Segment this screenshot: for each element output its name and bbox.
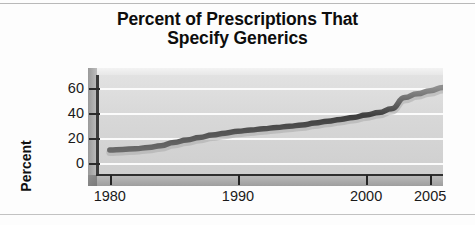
y-axis-tick-labels: 0204060 bbox=[52, 60, 84, 182]
x-axis-tick-mark bbox=[238, 175, 240, 185]
y-axis-tick-label: 20 bbox=[52, 131, 84, 145]
chart-title: Percent of Prescriptions That Specify Ge… bbox=[0, 10, 475, 48]
x-axis-tick-mark bbox=[430, 175, 432, 185]
x-axis-tick-labels: 1980199020002005 bbox=[0, 188, 475, 208]
x-axis-tick-label: 2000 bbox=[336, 188, 396, 204]
chart-title-line-1: Percent of Prescriptions That bbox=[0, 10, 475, 29]
y-axis-tick-label: 60 bbox=[52, 81, 84, 95]
plot-floor-slab bbox=[88, 175, 443, 186]
x-axis-tick-label: 1990 bbox=[208, 188, 268, 204]
page-rule-bottom bbox=[0, 214, 475, 215]
y-axis-tick-label: 40 bbox=[52, 106, 84, 120]
x-axis-tick-label: 2005 bbox=[400, 188, 460, 204]
x-axis-tick-mark bbox=[366, 175, 368, 185]
data-series-ribbon bbox=[97, 75, 443, 175]
x-axis-tick-mark bbox=[110, 175, 112, 185]
scanned-page: Percent of Prescriptions That Specify Ge… bbox=[0, 0, 475, 225]
chart-title-line-2: Specify Generics bbox=[0, 29, 475, 48]
page-rule-top bbox=[0, 3, 475, 4]
x-axis-tick-label: 1980 bbox=[80, 188, 140, 204]
chart-figure: Percent 0204060 1980199020002005 bbox=[0, 60, 475, 210]
plot-area bbox=[88, 68, 443, 182]
y-axis-tick-label: 0 bbox=[52, 156, 84, 170]
